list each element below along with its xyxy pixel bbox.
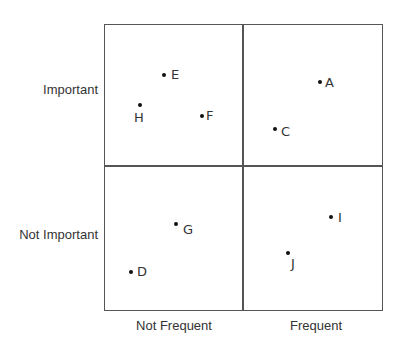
horizontal-divider	[104, 165, 383, 167]
point-marker-i	[329, 215, 333, 219]
point-marker-e	[162, 73, 166, 77]
point-marker-d	[129, 270, 133, 274]
vertical-divider	[242, 24, 244, 311]
point-label-i: I	[338, 210, 342, 225]
point-label-a: A	[325, 75, 334, 90]
point-marker-c	[273, 127, 277, 131]
point-label-c: C	[281, 124, 290, 139]
point-label-h: H	[134, 110, 144, 125]
point-marker-h	[138, 103, 142, 107]
point-marker-j	[286, 251, 290, 255]
point-marker-a	[318, 80, 322, 84]
point-label-d: D	[137, 264, 147, 279]
point-marker-g	[174, 222, 178, 226]
point-label-j: J	[291, 256, 295, 271]
x-label-not-frequent: Not Frequent	[136, 318, 212, 333]
y-label-important: Important	[43, 82, 98, 97]
point-marker-f	[200, 114, 204, 118]
point-label-f: F	[206, 108, 213, 123]
y-label-not-important: Not Important	[19, 227, 98, 242]
point-label-g: G	[183, 222, 193, 237]
point-label-e: E	[171, 67, 179, 82]
x-label-frequent: Frequent	[290, 318, 342, 333]
